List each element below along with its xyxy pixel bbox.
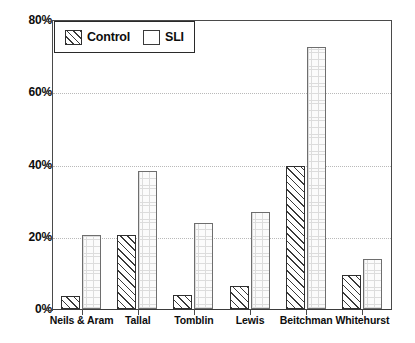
- bar-group: [278, 21, 334, 309]
- plain-swatch-icon: [143, 30, 160, 45]
- bars-layer: [53, 21, 391, 309]
- y-tick-label: 60%: [8, 86, 52, 98]
- hatched-swatch-icon: [65, 30, 82, 45]
- y-tick-mark-60: [46, 93, 53, 94]
- bar-sli-sli[interactable]: [363, 259, 382, 309]
- x-axis: Neils & AramTallalTomblinLewisBeitchmanW…: [52, 314, 400, 334]
- legend-label: Control: [87, 31, 130, 44]
- y-tick-mark-80: [46, 21, 53, 22]
- legend-label: SLI: [165, 31, 184, 44]
- bar-control-control[interactable]: [286, 166, 305, 310]
- x-tick-label: Neils & Aram: [50, 314, 114, 326]
- x-tick-label: Whitehurst: [335, 314, 389, 326]
- x-tick-label: Tallal: [125, 314, 150, 326]
- bar-sli-sli[interactable]: [138, 171, 157, 309]
- y-tick-mark-20: [46, 238, 53, 239]
- bar-group: [165, 21, 221, 309]
- bar-group: [109, 21, 165, 309]
- bar-control-control[interactable]: [61, 296, 80, 309]
- bar-group: [222, 21, 278, 309]
- y-tick-label: 80%: [8, 14, 52, 26]
- legend-entry-sli[interactable]: SLI: [143, 30, 184, 45]
- y-tick-mark-40: [46, 166, 53, 167]
- bar-sli-sli[interactable]: [194, 223, 213, 309]
- legend-entry-control[interactable]: Control: [65, 30, 130, 45]
- bar-control-control[interactable]: [230, 286, 249, 309]
- x-tick-label: Beitchman: [280, 314, 333, 326]
- legend: Control SLI: [54, 21, 195, 53]
- bar-group: [53, 21, 109, 309]
- y-tick-label: 20%: [8, 231, 52, 243]
- bar-control-control[interactable]: [342, 275, 361, 309]
- bar-control-control[interactable]: [117, 235, 136, 309]
- bar-sli-sli[interactable]: [251, 212, 270, 309]
- bar-sli-sli[interactable]: [307, 47, 326, 309]
- x-tick-label: Lewis: [236, 314, 265, 326]
- plot-area: [52, 20, 392, 310]
- y-axis: 80% 60% 40% 20% 0%: [0, 0, 52, 343]
- bar-control-control[interactable]: [173, 295, 192, 309]
- bar-group: [334, 21, 390, 309]
- y-tick-label: 0%: [8, 303, 52, 315]
- grouped-bar-chart: 80% 60% 40% 20% 0% Neils & AramTallalTom…: [0, 0, 415, 343]
- y-tick-label: 40%: [8, 159, 52, 171]
- bar-sli-sli[interactable]: [82, 235, 101, 309]
- x-tick-label: Tomblin: [174, 314, 213, 326]
